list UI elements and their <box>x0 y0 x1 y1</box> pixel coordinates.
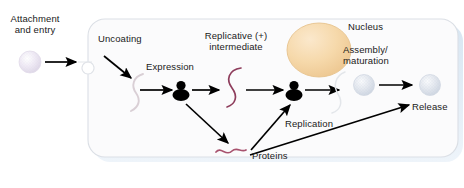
label-proteins: Proteins <box>252 150 288 161</box>
diagram-canvas <box>0 0 464 188</box>
membrane-entry-pore <box>82 62 94 74</box>
incoming-virion-texture <box>19 51 41 73</box>
label-replication: Replication <box>285 118 333 129</box>
label-release: Release <box>412 101 448 112</box>
assembled-virion-texture <box>354 75 375 96</box>
label-assembly-maturation: Assembly/ maturation <box>343 44 389 66</box>
released-virion-texture <box>420 75 441 96</box>
viral-replication-diagram: Attachment and entry Uncoating Expressio… <box>0 0 464 188</box>
label-expression: Expression <box>146 61 194 72</box>
label-uncoating: Uncoating <box>98 33 142 44</box>
label-replicative-intermediate: Replicative (+) intermediate <box>186 30 286 52</box>
label-attachment-and-entry: Attachment and entry <box>2 13 68 35</box>
label-nucleus: Nucleus <box>348 21 383 32</box>
